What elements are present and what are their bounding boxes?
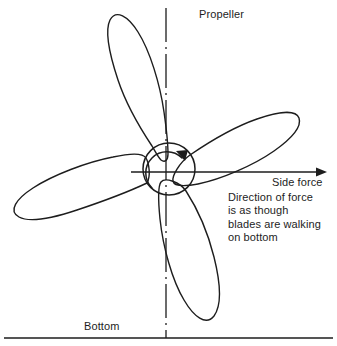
lower-left-blade xyxy=(14,154,149,220)
propeller-label: Propeller xyxy=(199,8,244,21)
propeller-side-force-diagram: Propeller Side force Direction of force … xyxy=(0,0,337,346)
note-line-3: blades are walking xyxy=(228,218,321,231)
upper-left-blade xyxy=(108,15,168,162)
force-direction-note: Direction of force is as though blades a… xyxy=(228,191,321,245)
side-force-label: Side force xyxy=(272,176,323,189)
lower-right-blade xyxy=(159,180,220,320)
bottom-label: Bottom xyxy=(84,320,119,333)
diagram-canvas xyxy=(0,0,337,346)
note-line-4: on bottom xyxy=(228,231,321,244)
note-line-2: is as though xyxy=(228,204,321,217)
note-line-1: Direction of force xyxy=(228,191,321,204)
